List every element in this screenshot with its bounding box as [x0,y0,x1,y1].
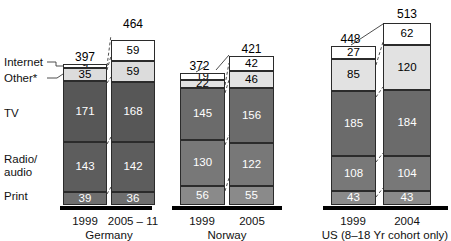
segment-tv[interactable]: 156 [229,88,274,143]
segment-value: 59 [127,66,140,78]
segment-value: 46 [245,74,258,86]
segment-other[interactable]: 85 [331,59,376,91]
tick-norway-2005: 2005 [222,215,282,227]
segment-value: 156 [242,110,261,122]
bar-germany-1999[interactable]: 9 35 171 143 39 [63,65,107,206]
segment-value: 143 [75,161,94,173]
segment-value: 59 [127,45,140,57]
segment-radio-audio[interactable]: 142 [111,142,155,192]
segment-tv[interactable]: 145 [180,88,225,140]
segment-print[interactable]: 36 [111,192,155,205]
bar-norway-1999[interactable]: 19 22 145 130 56 [180,74,225,206]
segment-value: 185 [344,118,363,130]
bar-us-2004[interactable]: 62 120 184 104 43 [383,24,431,206]
segment-value: 171 [75,106,94,118]
segment-value: 39 [79,193,92,205]
axis-baseline-germany [60,206,152,210]
tick-us-1999: 1999 [323,215,383,227]
bar-total-norway-2005: 421 [229,43,274,55]
segment-value: 108 [344,168,363,180]
bar-total-germany-1999: 397 [63,51,107,63]
bar-germany-2005-11[interactable]: 59 59 168 142 36 [111,41,155,206]
bar-norway-2005[interactable]: 42 46 156 122 55 [229,57,274,206]
segment-other[interactable]: 35 [63,68,107,81]
segment-tv[interactable]: 168 [111,82,155,142]
bar-total-us-1999: 448 [328,33,373,45]
segment-other[interactable]: 120 [383,45,431,90]
segment-value: 62 [401,28,414,40]
axis-baseline-norway [172,206,282,210]
segment-value: 122 [242,159,261,171]
bar-total-us-2004: 513 [383,8,431,20]
segment-print[interactable]: 55 [229,186,274,205]
segment-value: 184 [397,117,416,129]
segment-value: 104 [397,168,416,180]
segment-value: 85 [347,69,360,81]
segment-value: 145 [193,108,212,120]
segment-print[interactable]: 56 [180,186,225,205]
segment-value: 55 [245,190,258,202]
segment-radio-audio[interactable]: 143 [63,142,107,192]
group-caption-germany: Germany [55,229,163,241]
bar-total-germany-2005-11: 464 [111,18,155,30]
segment-print[interactable]: 43 [383,191,431,205]
axis-baseline-us [323,206,448,210]
segment-radio-audio[interactable]: 122 [229,143,274,186]
segment-print[interactable]: 39 [63,192,107,205]
segment-internet[interactable]: 62 [383,23,431,45]
segment-radio-audio[interactable]: 104 [383,156,431,191]
segment-other[interactable]: 59 [111,61,155,82]
segment-value: 22 [196,80,209,88]
group-norway: 19 22 145 130 56 42 46 156 [152,0,298,241]
segment-value: 43 [347,192,360,204]
group-us: 27 85 185 108 43 62 120 184 [298,0,451,241]
segment-value: 142 [123,161,142,173]
segment-other[interactable]: 46 [229,71,274,88]
segment-other[interactable]: 22 [180,80,225,88]
group-caption-norway: Norway [172,229,282,241]
tick-us-2004: 2004 [377,215,437,227]
segment-radio-audio[interactable]: 108 [331,156,376,191]
segment-tv[interactable]: 171 [63,81,107,142]
segment-print[interactable]: 43 [331,191,376,205]
segment-tv[interactable]: 184 [383,90,431,156]
segment-value: 56 [196,190,209,202]
segment-value: 43 [401,192,414,204]
segment-value: 168 [123,106,142,118]
bar-us-1999[interactable]: 27 85 185 108 43 [331,47,376,206]
group-caption-us: US (8–18 Yr cohort only) [310,229,451,241]
segment-radio-audio[interactable]: 130 [180,140,225,186]
segment-internet[interactable]: 59 [111,40,155,61]
segment-value: 27 [347,47,360,59]
segment-internet[interactable]: 19 [180,73,225,80]
segment-internet[interactable]: 42 [229,56,274,71]
segment-value: 130 [193,157,212,169]
group-germany: 9 35 171 143 39 59 59 168 [0,0,152,241]
bar-total-norway-1999: 372 [177,60,222,72]
segment-value: 35 [79,69,92,81]
stacked-bar-chart: Internet Other* TV Radio/ audio Print 9 … [0,0,451,241]
segment-value: 36 [127,193,140,205]
segment-internet[interactable]: 27 [331,46,376,59]
segment-value: 42 [245,58,258,70]
segment-value: 19 [196,73,209,80]
segment-tv[interactable]: 185 [331,91,376,156]
segment-value: 120 [397,62,416,74]
